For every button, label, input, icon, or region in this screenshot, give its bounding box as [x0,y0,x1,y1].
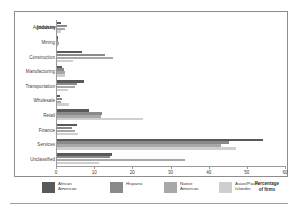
x-axis-tick-label: 60 [282,170,287,175]
legend-label: African American [58,181,92,192]
plot-frame: Industry AgricultureMiningConstructionMa… [14,11,288,177]
legend-label: Asian/Pacific Islander [235,181,269,192]
bar [57,74,65,76]
x-axis-tick-label: 10 [92,170,97,175]
category-label: Transportation [25,83,55,88]
x-axis-tick [247,166,248,169]
bar [57,133,78,135]
x-axis-tick-label: 40 [206,170,211,175]
footer-rule [10,203,288,204]
x-axis-tick-label: 30 [168,170,173,175]
bar [57,45,58,47]
legend-swatch [42,182,55,193]
category-axis-labels: AgricultureMiningConstructionManufacturi… [15,20,55,169]
bar [57,103,69,105]
x-axis-tick-label: 0 [55,170,58,175]
bar [57,147,236,149]
category-label: Mining [41,39,55,44]
x-axis-tick-label: 20 [130,170,135,175]
bar [57,30,61,32]
x-axis-tick [171,166,172,169]
category-label: Finance [39,127,55,132]
plot-area: 0102030405060 [56,20,285,169]
x-axis-tick-label: 50 [244,170,249,175]
legend-label: Native American [180,181,214,192]
category-label: Services [37,142,55,147]
bar [57,60,73,62]
chart-legend: Percentage of firms African AmericanHisp… [14,181,288,201]
legend-swatch [110,182,123,193]
legend-swatch [219,182,232,193]
legend-swatch [164,182,177,193]
category-label: Unclassified [30,156,55,161]
bar [57,162,99,164]
x-axis-tick [56,166,57,169]
category-label: Agriculture [33,25,55,30]
bar [57,89,68,91]
category-label: Wholesale [34,98,55,103]
category-label: Retail [43,112,55,117]
category-label: Manufacturing [26,69,55,74]
legend-label: Hispanic [126,181,160,186]
x-axis-tick [209,166,210,169]
x-axis-tick [285,166,286,169]
x-axis-tick [132,166,133,169]
chart-figure: Industry AgricultureMiningConstructionMa… [0,0,298,211]
bar [57,118,143,120]
category-label: Construction [29,54,55,59]
x-axis-tick [94,166,95,169]
